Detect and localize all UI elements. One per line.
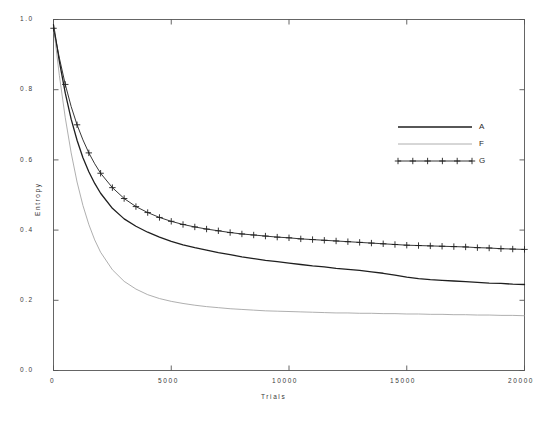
ytick-label-5: 1.0 bbox=[20, 15, 34, 22]
xtick-label-4: 20000 bbox=[508, 377, 534, 384]
xtick-label-0: 0 bbox=[50, 377, 55, 384]
legend-label-f: F bbox=[479, 139, 484, 148]
legend-label-a: A bbox=[479, 122, 485, 131]
ytick-label-1: 0.2 bbox=[20, 296, 34, 303]
series-line-g bbox=[54, 28, 525, 249]
xtick-label-2: 10000 bbox=[272, 377, 298, 384]
ytick-label-0: 0.0 bbox=[20, 366, 34, 373]
x-axis-title: Trials bbox=[261, 393, 286, 400]
ytick-label-4: 0.8 bbox=[20, 85, 34, 92]
ytick-label-3: 0.6 bbox=[20, 156, 34, 163]
xtick-label-3: 15000 bbox=[390, 377, 416, 384]
plot-frame bbox=[54, 20, 525, 371]
ytick-label-2: 0.4 bbox=[20, 226, 34, 233]
entropy-vs-trials-chart: 0.0 0.2 0.4 0.6 0.8 1.0 0 5000 10000 150… bbox=[0, 0, 558, 425]
plot-canvas bbox=[0, 0, 558, 425]
xtick-label-1: 5000 bbox=[158, 377, 179, 384]
legend-label-g: G bbox=[479, 156, 486, 165]
series-line-f bbox=[54, 27, 525, 316]
y-axis-title: Entropy bbox=[34, 182, 41, 216]
series-markers-g bbox=[50, 25, 527, 253]
